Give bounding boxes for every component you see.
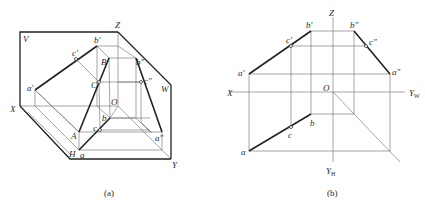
label-axis-Yh: YH xyxy=(326,166,336,177)
label-axis-X-b: X xyxy=(226,88,233,98)
label-a-prime: a′ xyxy=(27,83,35,93)
label-axis-Z: Z xyxy=(115,20,121,30)
label-plane-H: H xyxy=(68,149,76,159)
label-c-dprime-b: c″ xyxy=(369,37,377,47)
label-a-prime-b: a′ xyxy=(238,68,246,78)
figure-b-axes xyxy=(229,17,405,162)
label-c-b: c xyxy=(288,130,292,140)
figure-b-line-segments xyxy=(249,31,390,151)
label-a-dprime-b: a″ xyxy=(392,67,401,77)
label-plane-V: V xyxy=(23,34,30,44)
point-c-b xyxy=(290,126,293,129)
label-origin-O-b: O xyxy=(323,83,330,93)
label-axis-Z-b: Z xyxy=(329,8,335,18)
point-C-a xyxy=(98,81,101,84)
label-B: B xyxy=(101,57,107,67)
figure-b: Z X O YW YH a′ b′ c′ b″ c″ a″ a b c (b) xyxy=(226,8,420,198)
label-c-prime: c′ xyxy=(72,48,79,58)
label-axis-Yw: YW xyxy=(409,88,420,99)
point-c-dprime-b xyxy=(365,45,368,48)
label-b-prime: b′ xyxy=(94,35,102,45)
label-axis-Y: Y xyxy=(172,160,178,170)
label-a-dprime: a″ xyxy=(155,133,164,143)
label-c-prime-b: c′ xyxy=(286,35,293,45)
label-C: C xyxy=(91,80,98,90)
label-a-b: a xyxy=(241,147,246,157)
label-b-dprime: b″ xyxy=(136,57,145,67)
point-c-a xyxy=(99,129,102,132)
label-b-b: b xyxy=(310,118,315,128)
diagram-canvas: V W H X Z Y O a′ b′ c′ B C A a b c b″ c″… xyxy=(0,0,425,207)
label-axis-X: X xyxy=(9,104,16,114)
point-c-dprime-a xyxy=(140,81,143,84)
label-origin-O: O xyxy=(111,97,118,107)
caption-a: (a) xyxy=(104,188,114,198)
label-a: a xyxy=(80,150,85,160)
label-c: c xyxy=(93,123,97,133)
label-b-prime-b: b′ xyxy=(306,20,314,30)
label-b: b xyxy=(102,113,107,123)
label-c-dprime: c″ xyxy=(144,76,152,86)
figure-a: V W H X Z Y O a′ b′ c′ B C A a b c b″ c″… xyxy=(9,20,178,198)
label-b-dprime-b: b″ xyxy=(350,20,359,30)
label-A: A xyxy=(70,131,77,141)
label-plane-W: W xyxy=(161,84,170,94)
caption-b: (b) xyxy=(327,188,338,198)
